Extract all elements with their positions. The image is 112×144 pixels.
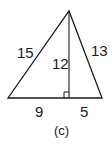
altitude-label: 12: [52, 56, 69, 71]
base-right-label: 5: [80, 104, 88, 119]
base-left-label: 9: [35, 104, 43, 119]
figure-caption: (c): [54, 124, 69, 137]
left-side-label: 15: [17, 45, 34, 60]
right-side-label: 13: [91, 43, 108, 58]
right-angle-marker: [64, 92, 69, 98]
